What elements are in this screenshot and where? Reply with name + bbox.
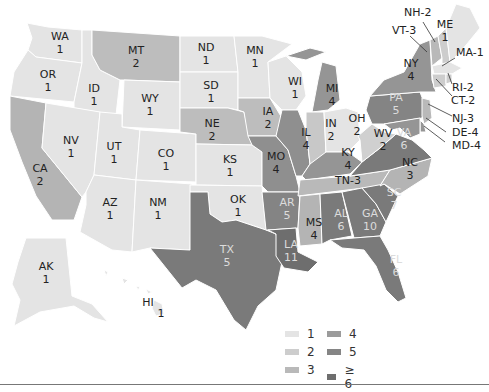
label-wv: WV 2 (374, 127, 392, 153)
label-az: AZ 1 (102, 196, 117, 222)
label-ks: KS 1 (223, 153, 237, 179)
legend-swatch (327, 331, 341, 337)
label-ia: IA 2 (263, 105, 274, 131)
legend-label: 2 (307, 345, 315, 359)
legend-item-1: 1 (285, 327, 315, 341)
label-pa: PA 5 (389, 91, 402, 117)
callout-nh: NH-2 (404, 6, 431, 19)
label-me: ME 1 (437, 18, 453, 44)
state-ct (432, 74, 446, 88)
legend-item-5: 5 (327, 345, 357, 359)
legend-item-6: ≥ 6 (327, 363, 359, 391)
label-tx: TX 5 (220, 243, 234, 269)
label-va: VA 6 (397, 126, 411, 152)
label-ga: GA 10 (362, 207, 378, 233)
label-ca: CA 2 (32, 162, 47, 188)
label-mn: MN 1 (246, 44, 264, 70)
legend-item-3: 3 (285, 363, 315, 377)
state-ak (12, 238, 108, 326)
label-or: OR 1 (40, 68, 56, 94)
label-ok: OK 1 (230, 193, 246, 219)
legend-swatch (285, 367, 299, 373)
callout-ma: MA-1 (456, 46, 484, 59)
state-ma (432, 62, 462, 74)
label-ak: AK 1 (39, 260, 54, 286)
legend-item-4: 4 (327, 327, 357, 341)
callout-nj: NJ-3 (452, 112, 474, 125)
label-sd: SD 1 (203, 79, 218, 105)
label-nm: NM 1 (149, 196, 167, 222)
label-wa: WA 1 (51, 30, 69, 56)
label-la: LA 11 (284, 238, 298, 264)
label-hi-value: 1 (158, 307, 165, 320)
label-co: CO 1 (158, 147, 174, 173)
label-ms: MS 4 (306, 216, 322, 242)
state-nj (422, 98, 432, 124)
label-mo: MO 4 (267, 150, 285, 176)
label-mt: MT 2 (128, 44, 144, 70)
label-ne: NE 2 (204, 117, 219, 143)
label-hi: HI (142, 296, 154, 309)
legend-swatch (327, 349, 341, 355)
label-mi: MI 4 (326, 82, 339, 108)
callout-md: MD-4 (452, 139, 481, 152)
callout-de: DE-4 (452, 126, 478, 139)
label-ny: NY 4 (404, 57, 419, 83)
legend-label: 4 (349, 327, 357, 341)
legend-label: ≥ 6 (344, 363, 359, 391)
label-wy: WY 1 (141, 92, 159, 118)
label-wi: WI 1 (288, 75, 302, 101)
label-in: IN 2 (325, 117, 336, 143)
leader-nh (423, 22, 435, 42)
legend-label: 5 (349, 345, 357, 359)
callout-vt: VT-3 (392, 24, 416, 37)
label-fl: FL 6 (390, 253, 402, 279)
label-ky: KY 4 (341, 146, 355, 172)
callout-ri: RI-2 (452, 81, 474, 94)
label-nc: NC 3 (402, 156, 418, 182)
callout-ct: CT-2 (451, 94, 475, 107)
legend-swatch (327, 374, 336, 380)
leader-md (424, 126, 445, 142)
legend-swatch (285, 349, 299, 355)
label-nv: NV 1 (63, 134, 79, 160)
label-nd: ND 1 (198, 41, 215, 67)
label-al: AL 6 (334, 207, 348, 233)
label-sc: SC 7 (387, 186, 402, 212)
label-ut: UT 1 (107, 140, 122, 166)
legend-label: 1 (307, 327, 315, 341)
label-tn: TN-3 (335, 174, 361, 187)
bottom-rule (0, 384, 489, 385)
legend-item-2: 2 (285, 345, 315, 359)
label-ar: AR 5 (279, 196, 294, 222)
label-il: IL 4 (301, 126, 310, 152)
legend-swatch (285, 331, 299, 337)
legend-label: 3 (307, 363, 315, 377)
state-hi (104, 270, 164, 316)
label-id: ID 1 (88, 82, 100, 108)
label-oh: OH 2 (349, 112, 366, 138)
